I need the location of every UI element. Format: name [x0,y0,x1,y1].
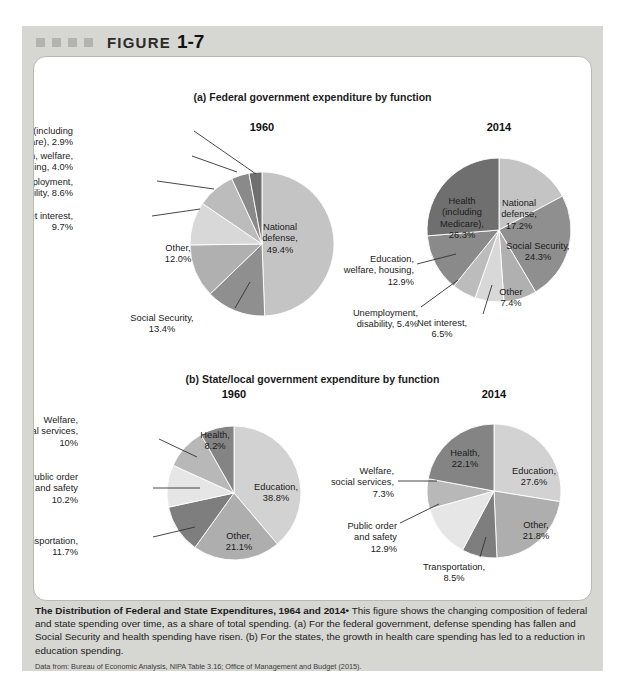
leader-line-net-interest [152,209,200,216]
pie-label-state-1960-transportation: Transportation, 11.7% [33,536,78,559]
pie-label-state-2014-health: Health, 22.1% [405,448,525,471]
marker-square-icon [52,38,61,47]
figure-marker-squares [36,38,93,47]
pie-label-federal-2014-education-welfare-housing: Education, welfare, housing, 12.9% [294,254,414,288]
figure-label-word: FIGURE [107,34,171,51]
pie-label-federal-1960-social-security: Social Security, 13.4% [102,313,222,336]
leader-line-education-welfare-housing [417,254,456,264]
pie-label-federal-2014-unemployment-disability: Unemployment, disability, 5.4% [298,308,418,331]
caption-headline: The Distribution of Federal and State Ex… [35,605,346,616]
figure-header: FIGURE 1-7 [22,26,603,58]
pie-label-federal-1960-net-interest: Net interest, 9.7% [33,211,73,234]
pie-label-federal-1960-other: Other, 12.0% [118,243,238,266]
panel-b-title: (b) State/local government expenditure b… [34,373,591,385]
figure-caption: The Distribution of Federal and State Ex… [33,604,592,666]
marker-square-icon [84,38,93,47]
panel-a-title: (a) Federal government expenditure by fu… [34,91,591,103]
pie-label-state-2014-transportation: Transportation, 8.5% [394,562,514,585]
caption-source: Data from: Bureau of Economic Analysis, … [35,662,590,671]
pie-label-state-2014-public-order-safety: Public order and safety 12.9% [277,521,397,555]
pie-label-state-1960-public-order-safety: Public order and safety 10.2% [33,472,78,506]
figure-frame: FIGURE 1-7 (a) Federal government expend… [22,26,603,671]
pie-label-federal-1960-national-defense: National defense, 49.4% [220,222,340,256]
leader-line-public-order-safety [400,504,439,523]
pie-label-federal-1960-unemployment-disability: Unemployment, disability, 8.6% [33,177,73,200]
caption-bullet: • [346,605,349,616]
pie-label-federal-2014-health-medicare: Health (including Medicare), 26.3% [402,196,522,242]
leader-line-unemployment-disability [157,181,214,189]
pie-label-state-2014-welfare-social-services: Welfare, social services, 7.3% [274,466,394,500]
chart-year-state-2014: 2014 [454,388,534,400]
pie-label-federal-2014-social-security: Social Security, 24.3% [478,241,592,264]
pie-label-state-1960-welfare-social-services: Welfare, social services, 10% [33,415,78,449]
chart-year-federal-2014: 2014 [459,121,539,133]
caption-text: The Distribution of Federal and State Ex… [35,604,590,657]
marker-square-icon [36,38,45,47]
figure-page: FIGURE 1-7 (a) Federal government expend… [0,0,625,691]
pie-label-state-2014-other: Other, 21.8% [476,520,592,543]
pie-label-federal-1960-health-medicare: Health (including Medicare), 2.9% [33,126,73,149]
leader-line-social-security [235,282,250,308]
figure-label-number: 1-7 [177,31,204,53]
chart-year-state-1960: 1960 [194,388,274,400]
leader-line-health-medicare [194,131,256,174]
leader-line-education-welfare-housing [192,156,237,172]
marker-square-icon [68,38,77,47]
chart-year-federal-1960: 1960 [222,121,302,133]
figure-chart-card: (a) Federal government expenditure by fu… [33,56,592,601]
pie-label-federal-1960-education-welfare-housing: Education, welfare, housing, 4.0% [33,151,73,174]
pie-label-state-1960-health: Health, 8.2% [155,430,275,453]
pie-label-federal-2014-other: Other 7.4% [451,287,571,310]
